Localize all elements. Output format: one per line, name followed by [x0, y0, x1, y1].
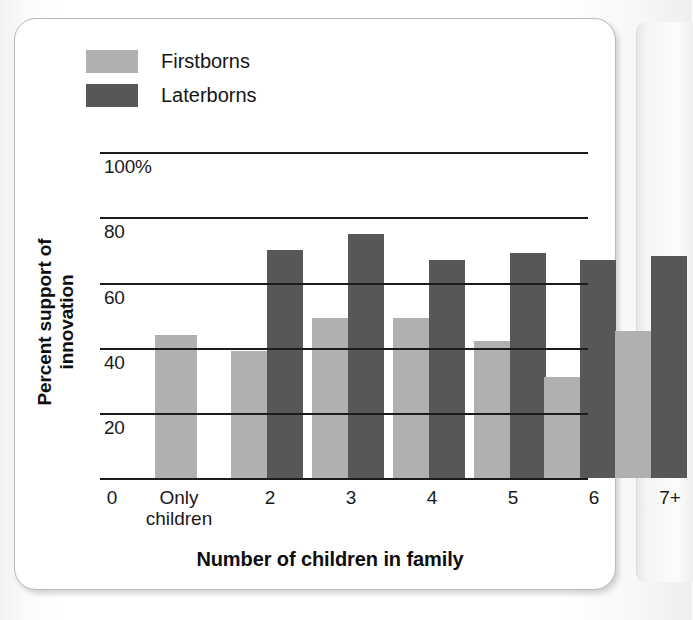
- bar-four-firstborns: [393, 318, 429, 478]
- xtick-2: 2: [253, 487, 287, 508]
- x-axis-baseline: [100, 478, 588, 480]
- bar-sevenplus-firstborns: [615, 331, 651, 478]
- xtick-4: 4: [415, 487, 449, 508]
- gridline-100: [100, 152, 588, 154]
- chart-legend: Firstborns Laterborns: [86, 44, 257, 112]
- bar-six-firstborns: [544, 377, 580, 478]
- gridline-60: [100, 283, 588, 285]
- ytick-label-100: 100%: [104, 156, 152, 178]
- xtick-3: 3: [334, 487, 368, 508]
- bar-three-laterborns: [348, 234, 384, 479]
- legend-label-laterborns: Laterborns: [161, 84, 257, 107]
- gridline-40: [100, 348, 588, 350]
- bar-three-firstborns: [312, 318, 348, 478]
- gridline-20: [100, 413, 588, 415]
- y-axis-title: Percent support of innovation: [34, 202, 78, 442]
- ytick-label-40: 40: [104, 352, 125, 374]
- xtick-7plus: 7+: [650, 487, 690, 508]
- bar-five-firstborns: [474, 341, 510, 478]
- bar-six-laterborns: [580, 260, 616, 478]
- xtick-6: 6: [577, 487, 611, 508]
- xtick-zero: 0: [95, 487, 129, 508]
- bar-sevenplus-laterborns: [651, 256, 687, 478]
- bar-five-laterborns: [510, 253, 546, 478]
- xtick-only-children: Only children: [133, 487, 225, 530]
- xtick-5: 5: [496, 487, 530, 508]
- firstborns-swatch: [86, 50, 138, 73]
- ytick-label-20: 20: [104, 417, 125, 439]
- bar-four-laterborns: [429, 260, 465, 478]
- bar-only-children-firstborns: [155, 335, 197, 478]
- x-axis-title: Number of children in family: [120, 548, 540, 571]
- ytick-label-80: 80: [104, 221, 125, 243]
- ytick-label-60: 60: [104, 287, 125, 309]
- legend-item-laterborns: Laterborns: [86, 78, 257, 112]
- legend-label-firstborns: Firstborns: [161, 50, 250, 73]
- legend-item-firstborns: Firstborns: [86, 44, 257, 78]
- gridline-80: [100, 217, 588, 219]
- laterborns-swatch: [86, 84, 138, 107]
